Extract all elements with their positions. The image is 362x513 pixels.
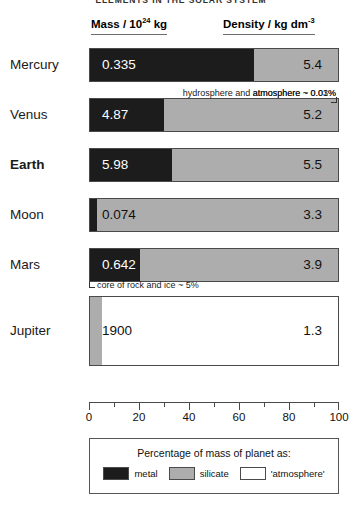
- legend-swatch-atmosphere-icon: [240, 467, 266, 480]
- legend-label-atmosphere: 'atmosphere': [271, 468, 325, 479]
- axis-tick-minor: [114, 403, 115, 407]
- bar-segment-metal: [90, 199, 97, 231]
- axis-tick-minor: [214, 403, 215, 407]
- legend-swatch-metal-icon: [103, 467, 129, 480]
- axis-tick-major: [89, 403, 90, 410]
- table-row: Jupiter 1900 1.3: [0, 296, 362, 346]
- axis-label-80: 80: [283, 411, 296, 423]
- mass-header-exponent: 24: [142, 16, 150, 25]
- axis-label-0: 0: [86, 411, 92, 423]
- legend-label-metal: metal: [134, 468, 157, 479]
- axis-label-100: 100: [329, 411, 348, 423]
- row-label-venus: Venus: [10, 98, 84, 132]
- mass-value-jupiter: 1900: [102, 296, 132, 366]
- table-row: Earth 5.98 5.5: [0, 148, 362, 198]
- axis-label-20: 20: [133, 411, 146, 423]
- legend-items: metal silicate 'atmosphere': [90, 467, 338, 480]
- axis-tick-major: [139, 403, 140, 410]
- legend-title: Percentage of mass of planet as:: [90, 447, 338, 459]
- callout-leader-icon: [331, 97, 337, 103]
- annotation-jupiter: core of rock and ice ~ 5%: [97, 280, 199, 290]
- density-value-jupiter: 1.3: [303, 296, 322, 366]
- legend-swatch-silicate-icon: [169, 467, 195, 480]
- density-value-mars: 3.9: [303, 248, 322, 282]
- annotation-jupiter-text: core of rock and ice ~ 5%: [97, 280, 199, 290]
- mass-header-text: Mass / 10: [91, 18, 142, 30]
- mass-column-header: Mass / 1024 kg: [91, 18, 167, 35]
- mass-value-earth: 5.98: [102, 148, 128, 182]
- mass-header-unit: kg: [151, 18, 168, 30]
- column-headers: Mass / 1024 kg Density / kg dm-3: [0, 18, 362, 44]
- density-header-text: Density / kg dm: [223, 18, 308, 30]
- axis-label-40: 40: [183, 411, 196, 423]
- density-header-exponent: -3: [308, 16, 315, 25]
- row-label-earth: Earth: [10, 148, 84, 182]
- mass-value-venus: 4.87: [102, 98, 128, 132]
- density-value-mercury: 5.4: [303, 48, 322, 82]
- axis-label-60: 60: [233, 411, 246, 423]
- legend-item-silicate: silicate: [169, 467, 229, 480]
- axis-tick-major: [239, 403, 240, 410]
- row-label-mars: Mars: [10, 248, 84, 282]
- mass-value-moon: 0.074: [102, 198, 136, 232]
- mass-value-mars: 0.642: [102, 248, 136, 282]
- bar-segment-silicate: [90, 297, 102, 365]
- row-label-moon: Moon: [10, 198, 84, 232]
- annotation-earth: hydrosphere and atmosphere ~ 0.03%: [128, 88, 336, 98]
- bar-segment-silicate: [254, 49, 338, 81]
- row-label-jupiter: Jupiter: [10, 296, 84, 366]
- table-row: atmosphere ~ 0.01% Venus 4.87 5.2: [0, 98, 362, 148]
- density-value-venus: 5.2: [303, 98, 322, 132]
- density-column-header: Density / kg dm-3: [223, 18, 315, 35]
- row-label-mercury: Mercury: [10, 48, 84, 82]
- legend-item-atmosphere: 'atmosphere': [240, 467, 325, 480]
- density-value-moon: 3.3: [303, 198, 322, 232]
- callout-leader-icon: [89, 282, 95, 288]
- table-row: Mars 0.642 3.9: [0, 248, 362, 298]
- chart-plot-area: Mercury 0.335 5.4 atmosphere ~ 0.01% Ven…: [0, 48, 362, 393]
- axis-tick-major: [289, 403, 290, 410]
- annotation-earth-text: hydrosphere and atmosphere ~ 0.03%: [183, 88, 336, 98]
- mass-value-mercury: 0.335: [102, 48, 136, 82]
- axis-tick-minor: [264, 403, 265, 407]
- axis-tick-major: [338, 403, 339, 410]
- legend-item-metal: metal: [103, 467, 157, 480]
- axis-tick-minor: [314, 403, 315, 407]
- legend-label-silicate: silicate: [200, 468, 229, 479]
- x-axis-labels: 0 20 40 60 80 100: [89, 411, 339, 427]
- legend: Percentage of mass of planet as: metal s…: [89, 438, 339, 494]
- table-row: Moon 0.074 3.3: [0, 198, 362, 248]
- axis-tick-minor: [164, 403, 165, 407]
- axis-tick-major: [189, 403, 190, 410]
- figure-title: ELEMENTS IN THE SOLAR SYSTEM: [0, 0, 362, 4]
- density-value-earth: 5.5: [303, 148, 322, 182]
